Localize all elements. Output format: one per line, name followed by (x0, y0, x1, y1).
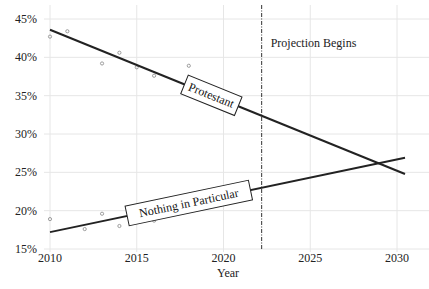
y-tick-label: 40% (15, 50, 37, 64)
data-point (153, 74, 156, 77)
x-tick-label: 2020 (212, 251, 236, 265)
data-point (100, 212, 103, 215)
y-tick-label: 20% (15, 204, 37, 218)
x-tick-label: 2010 (38, 251, 62, 265)
y-tick-label: 15% (15, 242, 37, 256)
data-point (118, 224, 121, 227)
series-label: Nothing in Particular (125, 180, 252, 225)
projection-marker: Projection Begins (262, 5, 357, 250)
data-point (118, 51, 121, 54)
data-point (100, 62, 103, 65)
data-point (66, 30, 69, 33)
y-tick-label: 25% (15, 165, 37, 179)
series-labels: ProtestantNothing in Particular (125, 75, 252, 226)
y-tick-label: 35% (15, 89, 37, 103)
data-point (187, 64, 190, 67)
x-tick-label: 2015 (125, 251, 149, 265)
projection-label: Projection Begins (271, 36, 357, 50)
y-tick-label: 30% (15, 127, 37, 141)
x-axis-label: Year (217, 266, 239, 280)
x-tick-label: 2030 (385, 251, 409, 265)
series-label: Protestant (181, 75, 242, 115)
y-tick-label: 45% (15, 12, 37, 26)
data-point (83, 227, 86, 230)
x-axis-ticks: 20102015202020252030 (38, 251, 409, 265)
chart: 15%20%25%30%35%40%45% 201020152020202520… (0, 0, 429, 289)
y-axis-ticks: 15%20%25%30%35%40%45% (15, 12, 37, 256)
x-tick-label: 2025 (298, 251, 322, 265)
